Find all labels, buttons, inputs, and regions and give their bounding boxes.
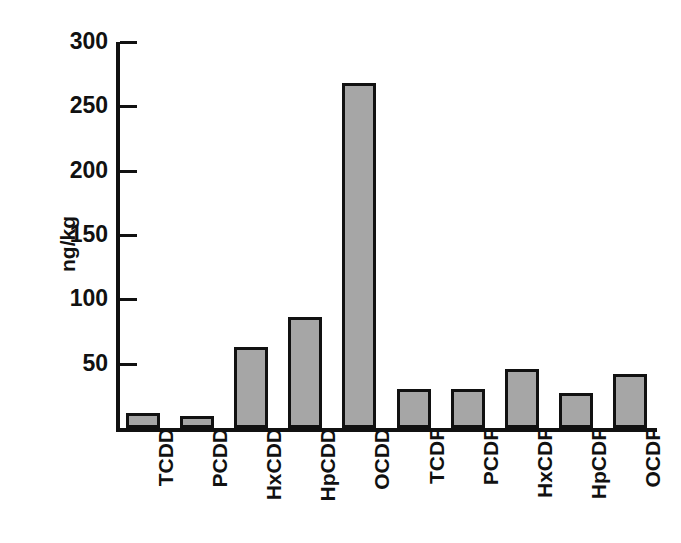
plot-area (116, 42, 657, 428)
bar-hpcdd[interactable] (288, 317, 322, 428)
bar-chart: ng/kg 30025020015010050 TCDDPCDDHxCDDHpC… (0, 0, 681, 543)
x-tick-label-hpcdd: HpCDD (315, 428, 341, 536)
x-tick-label-hxcdd: HxCDD (261, 428, 287, 536)
x-tick-label-pcdd: PCDD (207, 428, 233, 536)
x-tick-label-pcdf: PCDF (478, 428, 504, 536)
x-axis-tick-labels: TCDDPCDDHxCDDHpCDDOCDDTCDFPCDFHxCDFHpCDF… (116, 432, 657, 543)
bar-tcdf[interactable] (397, 389, 431, 428)
bar-hxcdf[interactable] (505, 369, 539, 428)
x-tick-label-tcdd: TCDD (153, 428, 179, 536)
bar-ocdd[interactable] (342, 83, 376, 428)
bar-ocdf[interactable] (613, 374, 647, 428)
x-tick-label-ocdf: OCDF (640, 428, 666, 536)
bar-hpcdf[interactable] (559, 393, 593, 428)
x-tick-label-hpcdf: HpCDF (586, 428, 612, 536)
bar-pcdd[interactable] (180, 416, 214, 428)
bar-hxcdd[interactable] (234, 347, 268, 428)
x-tick-label-ocdd: OCDD (369, 428, 395, 536)
bar-tcdd[interactable] (126, 413, 160, 428)
x-tick-label-hxcdf: HxCDF (532, 428, 558, 536)
bar-pcdf[interactable] (451, 389, 485, 428)
x-tick-label-tcdf: TCDF (424, 428, 450, 536)
